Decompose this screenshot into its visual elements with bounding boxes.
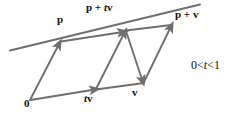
label-p: p xyxy=(57,14,63,25)
label-v: v xyxy=(132,87,138,98)
label-range-prefix: 0< xyxy=(191,58,204,72)
label-origin: 0 xyxy=(24,98,30,109)
segment-p-plus-tv-to-p-plus-v xyxy=(126,25,171,31)
label-range-suffix: <1 xyxy=(207,58,220,72)
arrow-tv-to-p-plus-tv xyxy=(96,33,125,90)
label-p-plus-tv-prefix: p + xyxy=(86,1,104,13)
label-p-plus-tv-vector-v: v xyxy=(107,1,113,13)
label-p-plus-v: p + v xyxy=(175,9,198,20)
arrow-p-plus-tv-to-v xyxy=(126,31,143,81)
arrow-v-to-p-plus-v xyxy=(144,27,172,84)
label-tv-vector-v: v xyxy=(87,92,93,104)
label-tv: tv xyxy=(84,93,93,104)
label-parameter-range: 0<t<1 xyxy=(191,59,220,71)
label-p-plus-tv: p + tv xyxy=(86,2,112,13)
vector-parallelogram-figure: p p + tv p + v 0 tv v 0<t<1 xyxy=(0,0,248,117)
arrow-origin-to-p xyxy=(30,44,59,100)
